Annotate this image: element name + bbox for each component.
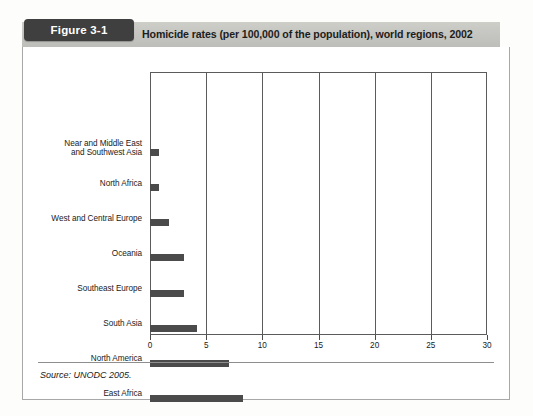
axis-tick: [319, 335, 320, 340]
axis-tick: [375, 335, 376, 340]
bar-row: Southern, Westand Central Africa: [0, 300, 533, 317]
source-note: Source: UNODC 2005.: [40, 370, 132, 380]
axis-tick: [206, 335, 207, 340]
bar-row: South Asia: [0, 160, 533, 177]
bar-row: Oceania: [0, 125, 533, 142]
bar-chart: Near and Middle Eastand Southwest AsiaNo…: [0, 0, 533, 416]
bar-row: North America: [0, 177, 533, 194]
bar: [150, 395, 243, 402]
axis-tick: [431, 335, 432, 340]
bar-row: North Africa: [0, 90, 533, 107]
bar-row: Central America: [0, 247, 533, 264]
axis-tick-label: 0: [138, 341, 162, 350]
bar: [150, 360, 229, 367]
source-divider: [38, 362, 494, 363]
axis-tick-label: 10: [250, 341, 274, 350]
bar-row: West and Central Europe: [0, 107, 533, 124]
bar-row: East Europe: [0, 230, 533, 247]
figure-panel: Figure 3-1 Homicide rates (per 100,000 o…: [0, 0, 533, 416]
axis-tick-label: 20: [363, 341, 387, 350]
bar-row: South America: [0, 282, 533, 299]
axis-tick: [487, 335, 488, 340]
axis-tick-label: 5: [194, 341, 218, 350]
category-label: East Africa: [2, 390, 142, 399]
bar-row: Caribbean: [0, 317, 533, 334]
bar-row: Southeast Europe: [0, 142, 533, 159]
bar-row: East and Southeast Asia: [0, 265, 533, 282]
bar-row: Near and Middle Eastand Southwest Asia: [0, 72, 533, 89]
axis-tick-label: 15: [307, 341, 331, 350]
axis-tick-label: 25: [419, 341, 443, 350]
axis-tick: [262, 335, 263, 340]
bar-row: Central Asia andTranscaucasian countries: [0, 212, 533, 229]
axis-tick: [150, 335, 151, 340]
bar-row: East Africa: [0, 195, 533, 212]
axis-tick-label: 30: [475, 341, 499, 350]
